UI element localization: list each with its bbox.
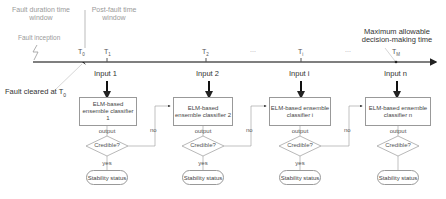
yes-label-i: yes (280, 160, 320, 166)
max-time-line2: decision-making time (352, 36, 442, 44)
output-label-n: output (378, 128, 418, 134)
classifier-box-i: ELM-based ensemble classifier i (269, 97, 331, 126)
stability-status-n: Stability status (377, 170, 419, 185)
input-label-2: Input 2 (196, 70, 219, 78)
fault-window-label: Fault duration time window (2, 6, 80, 21)
output-label-2: output (183, 128, 223, 134)
ellipsis-1: ... (250, 46, 256, 54)
output-label-i: output (280, 128, 320, 134)
classifier-box-n: ELM-based ensemble classifier n (365, 97, 431, 126)
tick-tm: TM (392, 48, 400, 58)
decision-label-1: Credible? (87, 142, 127, 148)
input-label-i: Input i (289, 70, 309, 78)
tick-t2: T2 (202, 48, 209, 58)
max-time-label: Maximum allowable decision-making time (352, 28, 442, 45)
fault-cleared-label: Fault cleared at T0 (5, 88, 66, 98)
input-label-n: Input n (384, 70, 407, 78)
input-label-1: Input 1 (94, 70, 117, 78)
decision-label-2: Credible? (183, 142, 223, 148)
stability-status-1: Stability status (86, 170, 128, 185)
tick-t1: T1 (104, 48, 111, 58)
output-label-1: output (87, 128, 127, 134)
no-label-i: no (344, 127, 351, 134)
yes-label-2: yes (183, 160, 223, 166)
classifier-box-2: ELM-based ensemble classifier 2 (173, 97, 233, 126)
ellipsis-2: ... (345, 46, 351, 54)
stability-status-2: Stability status (182, 170, 224, 185)
tick-t0: T0 (78, 48, 85, 58)
post-fault-window-label: Post-fault time window (88, 6, 140, 21)
decision-label-n: Credible? (378, 142, 418, 148)
stability-status-i: Stability status (279, 170, 321, 185)
no-label-1: no (150, 127, 157, 134)
classifier-box-1: ELM-based ensemble classifier 1 (79, 97, 137, 126)
decision-label-i: Credible? (280, 142, 320, 148)
tick-ti: Ti (298, 48, 303, 58)
no-label-2: no (246, 127, 253, 134)
yes-label-1: yes (87, 160, 127, 166)
fault-inception-label: Fault inception (18, 34, 60, 41)
